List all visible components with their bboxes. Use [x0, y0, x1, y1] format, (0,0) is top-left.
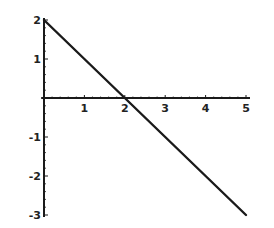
y-tick-label: -1 — [29, 131, 41, 144]
x-tick-label: 3 — [161, 102, 169, 115]
tick-labels: 1234521-1-2-3 — [29, 14, 250, 222]
x-tick-label: 5 — [242, 102, 250, 115]
series — [44, 20, 246, 215]
x-tick-label: 1 — [81, 102, 89, 115]
data-line — [44, 20, 246, 215]
x-tick-label: 4 — [202, 102, 210, 115]
y-tick-label: -2 — [29, 170, 41, 183]
chart-plot: 1234521-1-2-3 — [0, 0, 274, 228]
y-tick-label: -3 — [29, 209, 41, 222]
x-tick-label: 2 — [121, 102, 129, 115]
y-tick-label: 1 — [33, 53, 41, 66]
y-tick-label: 2 — [33, 14, 41, 27]
